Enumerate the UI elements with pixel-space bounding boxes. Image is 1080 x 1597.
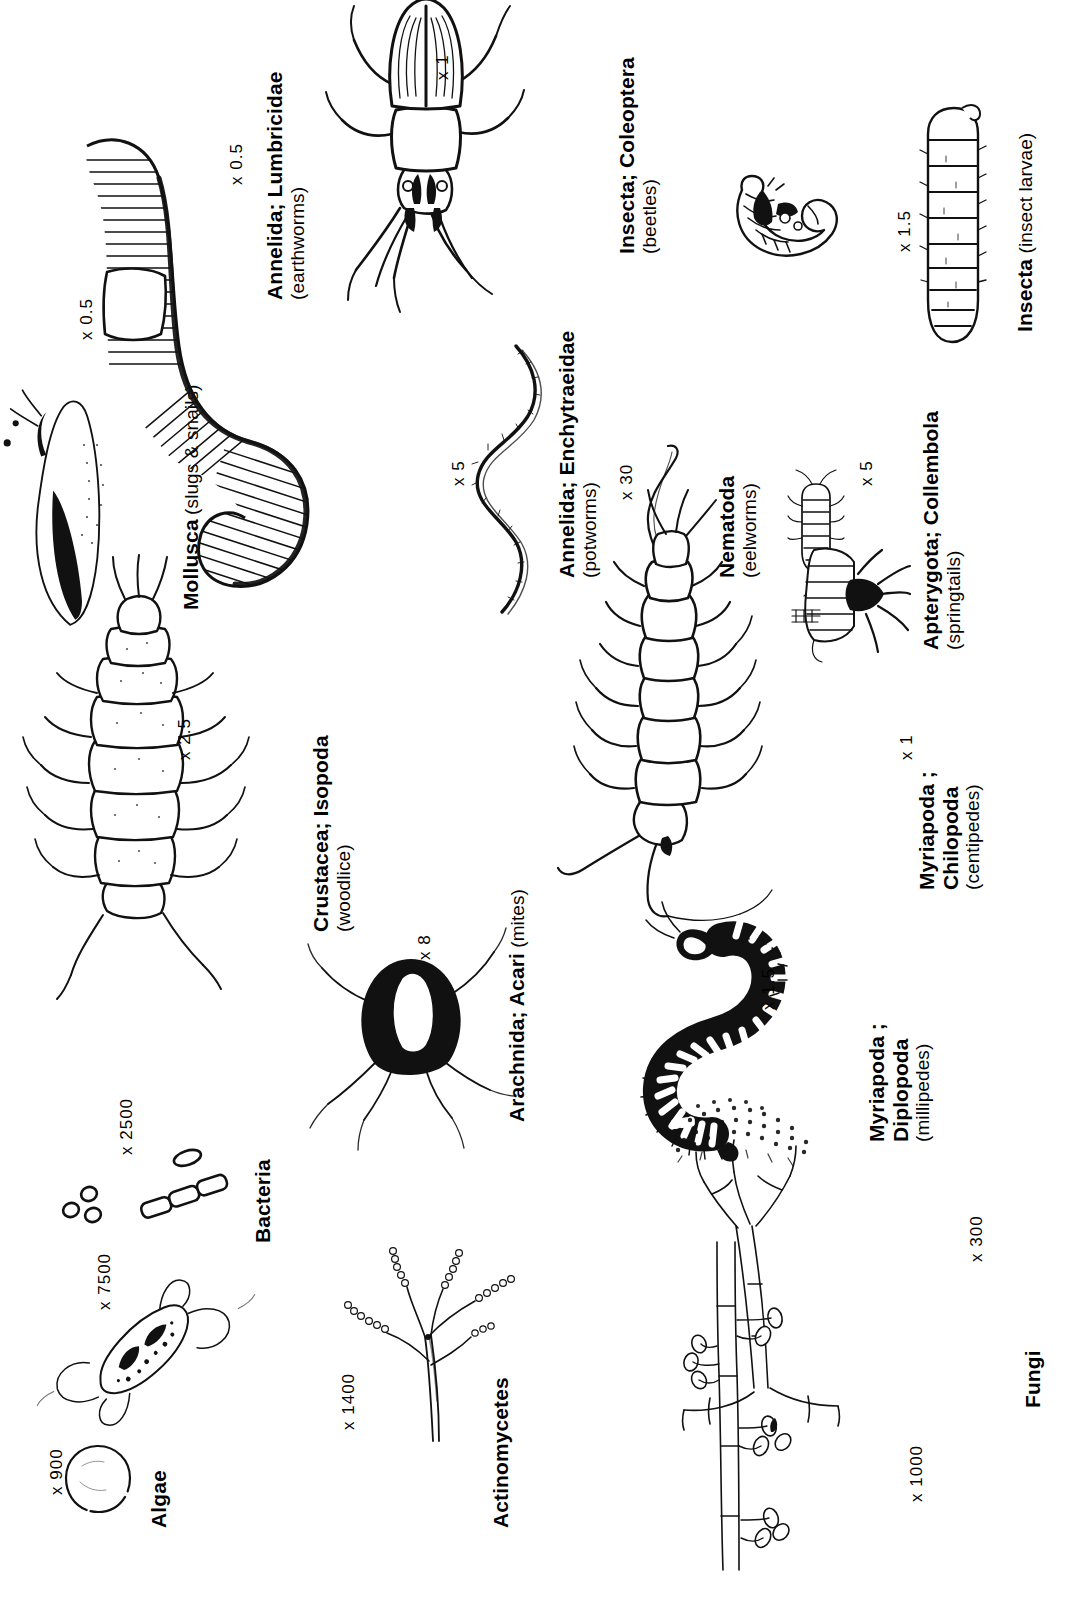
soil-organisms-plate: x 0.5 Mollusca (slugs & snails) bbox=[0, 0, 1080, 1597]
beetle-label: Insecta; Coleoptera (beetles) bbox=[616, 57, 660, 254]
potworm-magnification: x 5 bbox=[450, 460, 468, 486]
millipede-common: (millipedes) bbox=[913, 1023, 934, 1142]
mite-magnification: x 8 bbox=[416, 934, 434, 960]
algae-figure bbox=[58, 1440, 138, 1520]
woodlouse-figure bbox=[20, 710, 300, 940]
bacteria-magnification: x 2500 bbox=[118, 1098, 136, 1155]
centipede-name: Myriapoda ; bbox=[915, 771, 938, 890]
insect-larvae-common bbox=[1015, 254, 1036, 259]
insect-larvae-name: Insecta bbox=[1013, 259, 1036, 332]
millipede-name: Myriapoda ; bbox=[865, 1023, 888, 1142]
elongate-larva-figure bbox=[918, 100, 990, 350]
mite-name: Arachnida; Acari bbox=[505, 953, 528, 1122]
fungi-magnification-300: x 300 bbox=[968, 1215, 986, 1262]
beetle-common: (beetles) bbox=[640, 57, 661, 254]
springtail-common: (springtails) bbox=[944, 411, 965, 650]
fungi-label: Fungi bbox=[1022, 1350, 1045, 1408]
springtail-magnification: x 5 bbox=[858, 460, 876, 486]
actinomycetes-magnification: x 1400 bbox=[340, 1373, 358, 1430]
beetle-figure bbox=[290, 30, 620, 260]
algae-name: Algae bbox=[147, 1470, 170, 1528]
grub-larva-figure bbox=[722, 160, 852, 270]
actinomycetes-name: Actinomycetes bbox=[489, 1377, 512, 1528]
potworm-label: Annelida; Enchytraeidae (potworms) bbox=[556, 331, 600, 578]
centipede-figure bbox=[590, 690, 880, 880]
bacteria-name: Bacteria bbox=[251, 1159, 274, 1243]
algae-label: Algae bbox=[148, 1470, 171, 1528]
bacteria-label: Bacteria bbox=[252, 1159, 275, 1243]
woodlouse-common: (woodlice) bbox=[334, 735, 355, 932]
potworm-name: Annelida; Enchytraeidae bbox=[555, 331, 578, 578]
centipede-common: (centipedes) bbox=[963, 771, 984, 890]
fungi-conidiophore-figure bbox=[598, 1230, 938, 1390]
grub-larva-magnification: x 1.5 bbox=[896, 210, 914, 252]
springtail-name: Apterygota; Collembola bbox=[919, 411, 942, 650]
millipede-label: Myriapoda ; Diplopoda (millipedes) bbox=[866, 1023, 934, 1142]
millipede-figure bbox=[600, 930, 830, 1160]
centipede-name-line2: Chilopoda bbox=[940, 771, 963, 890]
beetle-magnification: x 1 bbox=[434, 54, 452, 80]
nematode-common: (eelworms) bbox=[740, 476, 761, 578]
bacteria-bacilli-figure bbox=[130, 1146, 240, 1226]
bacteria-large-cell-figure bbox=[40, 1248, 240, 1428]
mite-label: Arachnida; Acari (mites) bbox=[506, 889, 529, 1122]
millipede-magnification: x 1.5 bbox=[760, 968, 778, 1010]
nematode-name: Nematoda bbox=[715, 476, 738, 578]
algae-magnification: x 900 bbox=[48, 1448, 66, 1495]
centipede-label: Myriapoda ; Chilopoda (centipedes) bbox=[916, 771, 984, 890]
centipede-magnification: x 1 bbox=[898, 734, 916, 760]
fungi-name: Fungi bbox=[1021, 1350, 1044, 1408]
insect-larvae-common-text: (insect larvae) bbox=[1015, 133, 1036, 254]
woodlouse-magnification: x 2.5 bbox=[176, 718, 194, 760]
actinomycetes-label: Actinomycetes bbox=[490, 1377, 513, 1528]
mite-space bbox=[507, 948, 528, 953]
potworm-common: (potworms) bbox=[580, 331, 601, 578]
bacteria-magnification-2: x 7500 bbox=[96, 1253, 114, 1310]
woodlouse-name: Crustacea; Isopoda bbox=[309, 735, 332, 932]
earthworm-name: Annelida; Lumbricidae bbox=[263, 72, 286, 300]
mite-common: (mites) bbox=[507, 889, 528, 948]
fungi-magnification-1000: x 1000 bbox=[908, 1445, 926, 1502]
millipede-name-line2: Diplopoda bbox=[890, 1023, 913, 1142]
nematode-magnification: x 30 bbox=[618, 464, 636, 500]
woodlouse-label: Crustacea; Isopoda (woodlice) bbox=[310, 735, 354, 932]
bacteria-cocci-figure bbox=[55, 1170, 125, 1230]
insect-larvae-label: Insecta (insect larvae) bbox=[1014, 133, 1037, 332]
fungi-hypha-figure bbox=[620, 1455, 950, 1575]
springtail-furca-figure bbox=[788, 600, 828, 640]
earthworm-magnification: x 0.5 bbox=[228, 143, 246, 185]
beetle-name: Insecta; Coleoptera bbox=[615, 57, 638, 254]
springtail-label: Apterygota; Collembola (springtails) bbox=[920, 411, 964, 650]
